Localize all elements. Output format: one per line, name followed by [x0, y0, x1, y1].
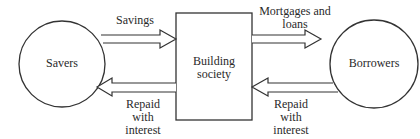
savings-arrow [101, 30, 176, 48]
repaid-to-savers-arrow [97, 78, 176, 96]
mortgages-line2: loans [255, 18, 335, 31]
building-society-line2: society [176, 68, 252, 81]
savings-label: Savings [110, 14, 160, 27]
repaid-right-label: Repaid with interest [266, 98, 316, 137]
repaid-to-society-arrow [252, 78, 338, 96]
borrowers-label: Borrowers [334, 57, 414, 70]
building-society-label: Building society [176, 55, 252, 81]
mortgages-label: Mortgages and loans [255, 5, 335, 31]
repaid-left-line3: interest [118, 124, 168, 137]
repaid-right-line3: interest [266, 124, 316, 137]
savers-label: Savers [32, 57, 92, 70]
mortgages-arrow [252, 30, 321, 48]
repaid-left-label: Repaid with interest [118, 98, 168, 137]
